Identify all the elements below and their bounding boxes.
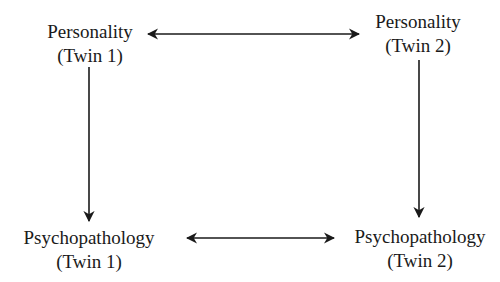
- arrows-layer: [0, 0, 500, 282]
